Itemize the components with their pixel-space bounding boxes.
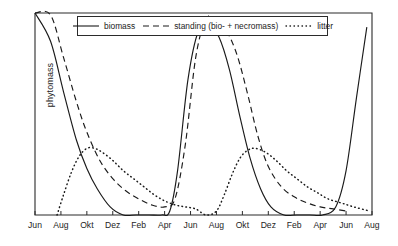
chart-legend: biomass standing (bio- + necromass) litt… xyxy=(77,16,328,36)
series-line-biomass xyxy=(35,13,367,216)
x-axis-tick-labels: JunAugOktDezFebAprJunAugOktDezFebAprJunA… xyxy=(0,220,398,236)
legend-label-litter: litter xyxy=(317,22,333,30)
series-line-litter xyxy=(57,148,369,216)
plot-area xyxy=(0,0,398,246)
legend-entry-litter: litter xyxy=(285,22,333,30)
legend-entry-biomass: biomass xyxy=(72,22,135,30)
series-line-standing xyxy=(35,11,346,211)
data-series-layer xyxy=(35,11,369,215)
legend-label-standing: standing (bio- + necromass) xyxy=(174,22,278,30)
dotted-line-key-icon xyxy=(285,22,313,30)
phytomass-chart-figure: phytomass JunAugOktDezFebAprJunAugOktDez… xyxy=(0,0,398,246)
x-axis-tick-label: Aug xyxy=(357,220,387,230)
dashed-line-key-icon xyxy=(142,22,170,30)
axis-frame xyxy=(35,13,372,215)
legend-label-biomass: biomass xyxy=(104,22,135,30)
solid-line-key-icon xyxy=(72,22,100,30)
legend-entry-standing: standing (bio- + necromass) xyxy=(142,22,278,30)
y-axis-title: phytomass xyxy=(45,35,59,135)
